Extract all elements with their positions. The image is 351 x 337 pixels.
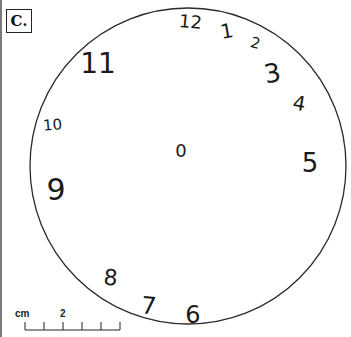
clock-numeral-8: 8: [103, 264, 119, 290]
clock-numeral-3: 3: [262, 57, 284, 89]
clock-drawing: 121234567891011 0 cm 2: [0, 0, 351, 337]
scale-tick-label: 2: [60, 308, 66, 319]
scale-unit-label: cm: [15, 308, 30, 319]
clock-numeral-2: 2: [248, 33, 262, 53]
clock-numeral-9: 9: [46, 172, 65, 207]
scale-bar-lines: [25, 322, 120, 330]
clock-numeral-4: 4: [291, 90, 308, 116]
clock-numeral-5: 5: [302, 148, 319, 178]
clock-numeral-12: 12: [178, 10, 203, 33]
clock-numeral-11: 11: [80, 47, 116, 80]
clock-center-mark: 0: [175, 140, 186, 161]
clock-numeral-6: 6: [185, 301, 200, 329]
clock-numerals: 121234567891011: [42, 10, 318, 329]
scale-bar: cm 2: [15, 308, 120, 330]
clock-face-circle: [30, 8, 346, 324]
clock-numeral-7: 7: [140, 291, 158, 320]
clock-numeral-10: 10: [42, 115, 63, 135]
clock-numeral-1: 1: [218, 18, 235, 44]
